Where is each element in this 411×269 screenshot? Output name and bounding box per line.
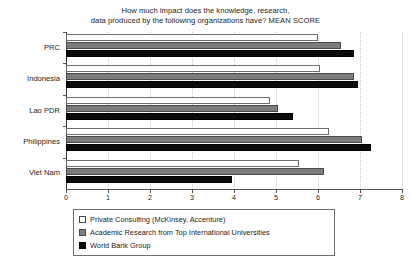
bar [66,128,329,135]
legend-swatch-icon [79,229,86,236]
bar [66,160,299,167]
bar [66,97,270,104]
legend-label: World Bank Group [90,241,151,250]
category-label-prc: PRC [0,43,60,52]
bar [66,105,278,112]
bar [66,113,293,120]
x-tick-label: 6 [316,193,320,202]
category-label-indonesia: Indonesia [0,74,60,83]
category-label-lao-pdr: Lao PDR [0,106,60,115]
bar [66,176,232,183]
x-tick-label: 8 [400,193,404,202]
y-tickmark [63,63,67,64]
bar-chart: How much impact does the knowledge, rese… [0,0,411,269]
gridline-8 [402,32,403,189]
x-tick-label: 5 [274,193,278,202]
category-label-viet-nam: Viet Nam [0,168,60,177]
x-tick-label: 2 [148,193,152,202]
bar [66,168,324,175]
category-label-philippines: Philippines [0,137,60,146]
chart-title-line-2: data produced by the following organizat… [0,16,411,26]
legend-item[interactable]: Academic Research from Top International… [79,226,329,239]
bar [66,144,371,151]
chart-title: How much impact does the knowledge, rese… [0,6,411,26]
bar [66,34,318,41]
legend-item[interactable]: Private Consulting (McKinsey, Accenture) [79,213,329,226]
x-tick-label: 1 [106,193,110,202]
x-tick-label: 3 [190,193,194,202]
legend-label: Private Consulting (McKinsey, Accenture) [90,215,225,224]
bar [66,42,341,49]
legend-swatch-icon [79,242,86,249]
y-tickmark [63,158,67,159]
legend-label: Academic Research from Top International… [90,228,270,237]
bar [66,50,354,57]
x-tick-label: 4 [232,193,236,202]
bar [66,65,320,72]
x-tick-label: 0 [64,193,68,202]
legend-item[interactable]: World Bank Group [79,239,329,252]
y-tickmark [63,95,67,96]
y-tickmark [63,126,67,127]
bar [66,136,362,143]
y-tickmark [63,32,67,33]
bar [66,81,358,88]
gridline-7 [360,32,361,189]
bar [66,73,354,80]
chart-title-line-1: How much impact does the knowledge, rese… [0,6,411,16]
x-tick-label: 7 [358,193,362,202]
legend-swatch-icon [79,216,86,223]
chart-legend: Private Consulting (McKinsey, Accenture)… [73,209,335,256]
